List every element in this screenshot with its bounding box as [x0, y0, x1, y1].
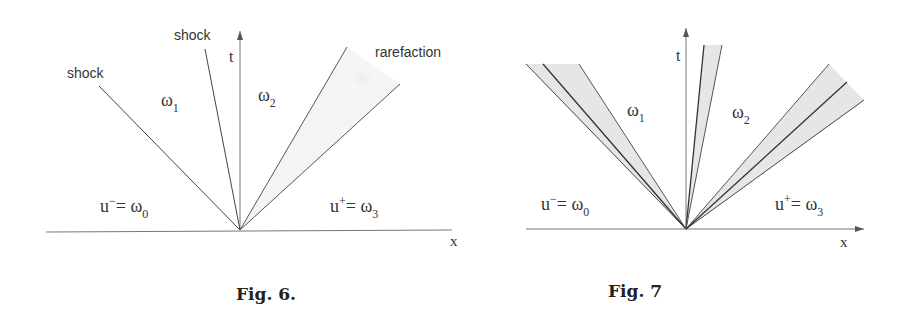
omega2-label: ω2 [258, 85, 276, 110]
middle-shock-label: shock [174, 27, 212, 43]
x-axis [46, 230, 452, 232]
figure-6-caption: Fig. 6. [236, 284, 296, 304]
left-state-label: u−= ω0 [541, 192, 589, 219]
riemann-problem-diagrams: shock shock rarefaction t x ω1 ω2 u−= ω0… [0, 0, 907, 312]
figure-7: t x ω1 ω2 u−= ω0 u+= ω3 Fig. 7 [526, 28, 864, 301]
rarefaction-smudge [340, 58, 384, 98]
middle-shock-line [205, 49, 240, 230]
omega1-label: ω1 [161, 90, 179, 115]
right-state-label: u+= ω3 [330, 194, 378, 221]
t-axis-label: t [229, 48, 234, 65]
figure-7-caption: Fig. 7 [608, 281, 662, 301]
figure-6: shock shock rarefaction t x ω1 ω2 u−= ω0… [46, 27, 458, 304]
x-axis-label: x [450, 233, 458, 249]
right-state-label: u+= ω3 [775, 192, 823, 219]
t-axis-label: t [676, 47, 681, 64]
omega2-label: ω2 [732, 102, 750, 127]
left-fan-outer-line [579, 64, 686, 229]
x-axis-label: x [840, 234, 848, 250]
left-state-label: u−= ω0 [100, 194, 148, 221]
rarefaction-label: rarefaction [375, 44, 441, 60]
omega1-label: ω1 [627, 100, 645, 125]
left-shock-label: shock [67, 65, 105, 81]
